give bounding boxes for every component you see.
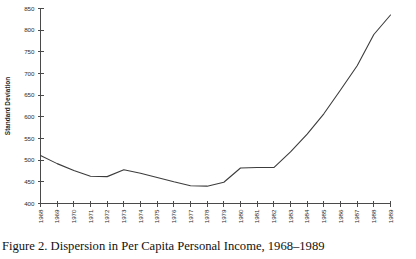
x-tick-label-1971: 1971 — [87, 209, 94, 223]
y-tick-label-450: 450 — [24, 178, 35, 185]
figure-caption: Figure 2. Dispersion in Per Capita Perso… — [0, 234, 416, 259]
x-tick-label-1986: 1986 — [337, 209, 344, 223]
line-chart-svg: 400450500550600650700750800850 196819691… — [0, 0, 416, 232]
y-axis-tick-labels: 400450500550600650700750800850 — [24, 5, 35, 207]
y-tick-label-750: 750 — [24, 48, 35, 55]
x-tick-label-1977: 1977 — [187, 209, 194, 223]
y-axis-title-text: Standard Deviation — [4, 77, 11, 135]
y-tick-label-800: 800 — [24, 26, 35, 33]
y-tick-label-550: 550 — [24, 135, 35, 142]
x-tick-label-1972: 1972 — [103, 209, 110, 223]
x-tick-label-1976: 1976 — [170, 209, 177, 223]
x-tick-label-1979: 1979 — [220, 209, 227, 223]
x-tick-label-1983: 1983 — [287, 209, 294, 223]
x-tick-label-1982: 1982 — [270, 209, 277, 223]
x-tick-label-1978: 1978 — [203, 209, 210, 223]
x-tick-label-1987: 1987 — [353, 209, 360, 223]
x-tick-label-1980: 1980 — [237, 209, 244, 223]
x-tick-label-1988: 1988 — [370, 209, 377, 223]
y-tick-label-600: 600 — [24, 113, 35, 120]
x-tick-label-1984: 1984 — [303, 209, 310, 223]
y-axis-title: Standard Deviation — [4, 77, 11, 135]
x-tick-label-1974: 1974 — [137, 209, 144, 223]
x-tick-label-1973: 1973 — [120, 209, 127, 223]
x-tick-label-1968: 1968 — [37, 209, 44, 223]
x-tick-label-1981: 1981 — [253, 209, 260, 223]
x-tick-label-1989: 1989 — [387, 209, 394, 223]
figure-container: 400450500550600650700750800850 196819691… — [0, 0, 416, 259]
data-line-standard-deviation — [41, 15, 391, 186]
x-tick-label-1985: 1985 — [320, 209, 327, 223]
x-tick-label-1970: 1970 — [70, 209, 77, 223]
x-axis-tick-labels: 1968196919701971197219731974197519761977… — [37, 209, 394, 223]
chart-plot-area: 400450500550600650700750800850 196819691… — [0, 0, 416, 232]
y-tick-label-400: 400 — [24, 200, 35, 207]
x-tick-label-1975: 1975 — [153, 209, 160, 223]
y-tick-label-500: 500 — [24, 156, 35, 163]
y-tick-label-650: 650 — [24, 91, 35, 98]
y-tick-label-850: 850 — [24, 5, 35, 12]
x-tick-label-1969: 1969 — [53, 209, 60, 223]
y-tick-label-700: 700 — [24, 70, 35, 77]
data-series-group — [41, 15, 391, 186]
